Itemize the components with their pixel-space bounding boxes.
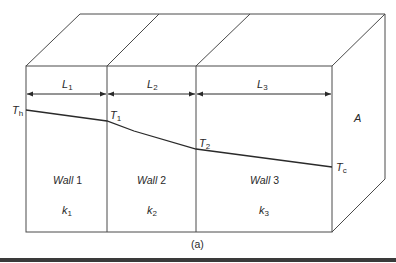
length-label-3: L3 [257,78,268,92]
conductivity-label-1: k1 [62,204,73,218]
top-face [26,14,385,66]
composite-wall-diagram: L1 L2 L3 Th T1 T2 Tc A Wall 1 Wall 2 Wal… [0,0,396,263]
length-label-2: L2 [147,78,158,92]
conductivity-label-2: k2 [147,204,158,218]
wall-label-3: Wall 3 [250,174,279,186]
wall-label-2: Wall 2 [137,174,166,186]
temp-label-cold: Tc [336,161,347,175]
temp-label-hot: Th [12,104,23,118]
figure-caption: (a) [191,238,204,250]
wall-label-1: Wall 1 [53,174,82,186]
temp-label-t2: T2 [199,137,211,151]
conductivity-label-3: k3 [259,204,270,218]
temperature-profile-line [26,110,332,167]
bottom-rule [0,258,396,262]
temp-label-t1: T1 [110,109,122,123]
area-label: A [353,112,361,124]
length-label-1: L1 [62,78,73,92]
